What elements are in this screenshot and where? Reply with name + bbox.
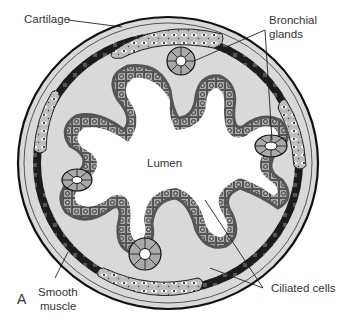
cartilage-leader xyxy=(68,20,122,27)
bronchial-gland-left xyxy=(62,169,92,191)
bronchial-glands-label-line2: glands xyxy=(269,28,303,41)
lumen-label: Lumen xyxy=(147,157,182,170)
cartilage-label: Cartilage xyxy=(24,13,70,26)
bronchial-gland-right xyxy=(255,135,287,157)
bronchus-diagram: Cartilage Bronchial glands Lumen Smooth … xyxy=(0,0,342,328)
bronchial-glands-label-line1: Bronchial xyxy=(269,14,317,27)
smooth-muscle-label-line2: muscle xyxy=(40,300,76,313)
smooth-muscle-label-line1: Smooth xyxy=(38,286,78,299)
ciliated-cells-label: Ciliated cells xyxy=(271,282,336,295)
bronchial-gland-top xyxy=(167,47,195,75)
bronchial-gland-bottom xyxy=(129,238,161,270)
panel-letter: A xyxy=(17,293,26,306)
